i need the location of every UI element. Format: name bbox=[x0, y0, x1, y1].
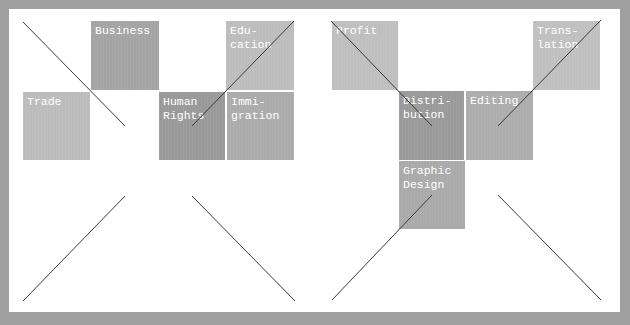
box-translation: Trans- lation bbox=[533, 21, 600, 90]
box-graphic-design: Graphic Design bbox=[399, 161, 465, 229]
box-education: Edu- cation bbox=[226, 21, 294, 90]
box-editing: Editing bbox=[466, 91, 533, 160]
box-profit: Profit bbox=[332, 21, 398, 90]
box-business: Business bbox=[91, 21, 159, 90]
box-human-rights: Human Rights bbox=[159, 92, 225, 160]
box-distribution: Distri- bution bbox=[399, 91, 464, 160]
box-trade: Trade bbox=[23, 92, 90, 160]
box-immigration: Immi- gration bbox=[227, 92, 294, 160]
